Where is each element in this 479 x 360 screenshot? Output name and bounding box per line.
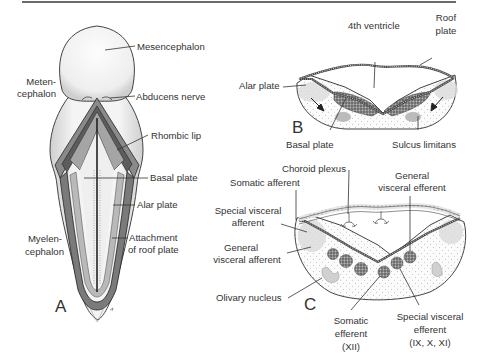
- label-special-visceral-afferent-2: afferent: [212, 217, 284, 229]
- panel-letter-a: A: [55, 297, 66, 317]
- label-myelencephalon-2: cephalon: [14, 246, 64, 258]
- label-basal-plate-b: Basal plate: [286, 139, 333, 151]
- label-roof-plate-2: plate: [428, 25, 464, 37]
- label-special-visceral-afferent-1: Special visceral: [208, 205, 288, 217]
- label-metencephalon-1: Meten-: [14, 76, 56, 88]
- label-alar-plate-b: Alar plate: [239, 80, 280, 92]
- label-metencephalon-2: cephalon: [10, 88, 56, 100]
- label-somatic-efferent-3: (XII): [326, 341, 376, 353]
- mesencephalon-shape: [60, 26, 135, 101]
- label-sulcus-limitans: Sulcus limitans: [392, 139, 456, 151]
- roof-plate: [299, 65, 454, 79]
- label-general-visceral-afferent-2: visceral afferent: [204, 254, 290, 266]
- label-general-visceral-afferent-1: General: [206, 242, 276, 254]
- label-general-visceral-efferent-2: visceral efferent: [374, 182, 450, 194]
- label-general-visceral-efferent-1: General: [384, 170, 440, 182]
- panel-letter-b: B: [292, 118, 303, 138]
- panel-b-cross-section: [283, 58, 458, 130]
- label-alar-plate-a: Alar plate: [137, 199, 178, 211]
- label-special-visceral-efferent-1: Special visceral: [388, 311, 472, 323]
- label-roof-plate-1: Roof: [428, 12, 464, 24]
- label-basal-plate-a: Basal plate: [150, 172, 197, 184]
- label-special-visceral-efferent-3: (IX, X, XI): [396, 337, 464, 349]
- label-choroid-plexus: Choroid plexus: [282, 163, 346, 175]
- label-mesencephalon: Mesencephalon: [137, 41, 205, 53]
- label-rhombic-lip: Rhombic lip: [151, 130, 201, 142]
- label-attachment-1: Attachment: [129, 232, 178, 244]
- label-olivary-nucleus: Olivary nucleus: [216, 292, 282, 304]
- label-special-visceral-efferent-2: efferent: [400, 324, 460, 336]
- label-abducens-nerve: Abducens nerve: [136, 91, 205, 103]
- label-somatic-afferent: Somatic afferent: [230, 177, 300, 189]
- panel-a-brainstem: [50, 26, 148, 322]
- label-4th-ventricle: 4th ventricle: [348, 20, 400, 32]
- label-myelencephalon-1: Myelen-: [14, 233, 62, 245]
- panel-letter-c: C: [304, 295, 316, 315]
- label-somatic-efferent-1: Somatic: [326, 315, 376, 327]
- label-somatic-efferent-2: efferent: [326, 328, 376, 340]
- label-attachment-2: of roof plate: [128, 244, 179, 256]
